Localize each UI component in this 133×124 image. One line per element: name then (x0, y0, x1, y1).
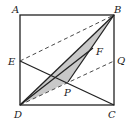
label-q: Q (117, 55, 125, 66)
label-b: B (113, 4, 121, 15)
label-a: A (11, 4, 19, 15)
label-f: F (95, 46, 104, 57)
label-c: C (108, 109, 116, 120)
label-e: E (7, 56, 16, 67)
segment-df (20, 48, 93, 105)
label-d: D (13, 109, 22, 120)
label-p: P (63, 87, 71, 98)
geometry-figure: A B C D E Q F P (0, 0, 133, 124)
